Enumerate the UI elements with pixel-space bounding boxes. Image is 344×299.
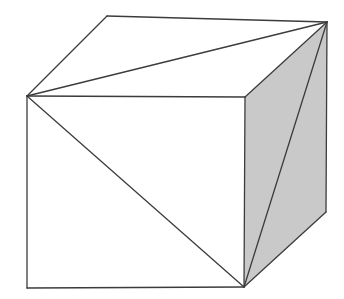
cube-drawing <box>0 0 344 299</box>
cube-figure <box>0 0 344 299</box>
